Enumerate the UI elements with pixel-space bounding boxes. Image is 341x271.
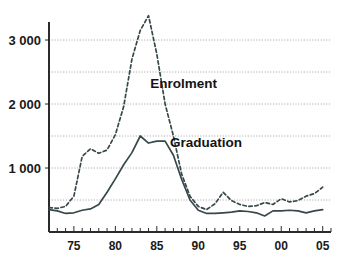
y-tick-label-2000: 2 000 xyxy=(8,97,41,112)
y-axis-tick-labels: 1 0002 0003 000 xyxy=(8,33,41,176)
line-chart: 1 0002 0003 000 75808590950005 Enrolment… xyxy=(0,0,341,271)
series-annotations: EnrolmentGraduation xyxy=(150,76,242,150)
series-line-enrolment xyxy=(49,16,323,210)
x-tick-label-00: 00 xyxy=(275,239,289,253)
x-axis-tick-labels: 75808590950005 xyxy=(67,239,329,253)
annotation-enrolment: Enrolment xyxy=(150,76,217,91)
x-tick-label-75: 75 xyxy=(67,239,81,253)
chart-container: 1 0002 0003 000 75808590950005 Enrolment… xyxy=(0,0,341,271)
x-tick-label-85: 85 xyxy=(150,239,164,253)
x-tick-label-90: 90 xyxy=(192,239,206,253)
series-lines xyxy=(49,16,323,216)
annotation-graduation: Graduation xyxy=(170,135,242,150)
x-tick-label-95: 95 xyxy=(233,239,247,253)
x-tick-label-80: 80 xyxy=(109,239,123,253)
y-tick-label-3000: 3 000 xyxy=(8,33,41,48)
x-tick-label-05: 05 xyxy=(316,239,330,253)
y-tick-label-1000: 1 000 xyxy=(8,161,41,176)
gridlines xyxy=(49,40,331,200)
